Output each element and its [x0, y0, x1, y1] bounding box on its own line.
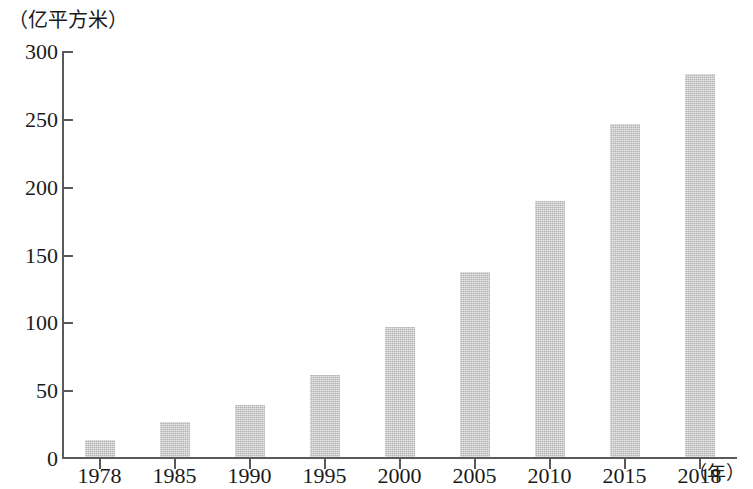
x-axis-tick-label: 1978 — [78, 464, 122, 488]
bar-chart-figure: （亿平方米） 050100150200250300 19781985199019… — [0, 0, 753, 489]
y-axis-tick-label: 150 — [0, 245, 58, 267]
y-axis-unit-caption: （亿平方米） — [8, 8, 128, 32]
x-axis-tick-label: 2015 — [603, 464, 647, 488]
y-axis-tick-label: 0 — [0, 448, 58, 470]
plot-area — [62, 52, 737, 459]
x-axis-tick-label: 1995 — [303, 464, 347, 488]
x-axis-tick-label: 1990 — [228, 464, 272, 488]
x-axis-tick-label: 2000 — [378, 464, 422, 488]
x-axis-tick-label: 1985 — [153, 464, 197, 488]
x-axis-unit-caption: （年） — [688, 462, 745, 486]
x-axis-tick-label: 2010 — [528, 464, 572, 488]
y-axis-tick-label: 100 — [0, 312, 58, 334]
y-axis-tick-label: 200 — [0, 177, 58, 199]
y-axis-tick-label: 300 — [0, 41, 58, 63]
x-axis-tick-label: 2005 — [453, 464, 497, 488]
y-axis-tick-label: 250 — [0, 109, 58, 131]
y-axis-tick-label: 50 — [0, 380, 58, 402]
